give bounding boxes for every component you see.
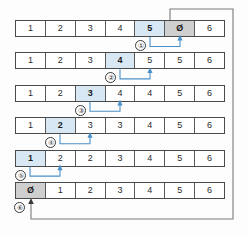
array-cell: 1 <box>16 53 46 68</box>
array-cell: 5 <box>135 21 165 36</box>
shift-arrow-path <box>30 167 60 177</box>
array-cell: 4 <box>135 86 165 101</box>
array-cell: 5 <box>135 53 165 68</box>
array-cell: 2 <box>46 86 76 101</box>
array-cell: 1 <box>46 183 76 198</box>
array-shift-diagram: 12345Ø61234556123445612334561223456Ø1234… <box>0 0 248 238</box>
array-cell: 2 <box>46 53 76 68</box>
array-cell: 6 <box>195 86 224 101</box>
array-cell: 4 <box>135 118 165 133</box>
array-cell: 1 <box>16 118 46 133</box>
shift-arrow-path <box>90 102 120 112</box>
array-cell: 6 <box>195 21 224 36</box>
step-marker: ⑤ <box>15 170 26 181</box>
shift-arrow-path <box>120 69 150 79</box>
array-cell: 4 <box>135 151 165 166</box>
array-cell: 6 <box>195 183 224 198</box>
array-cell: 3 <box>106 151 136 166</box>
array-cell: 3 <box>76 53 106 68</box>
array-cell: 5 <box>165 53 195 68</box>
array-cell: 3 <box>106 183 136 198</box>
array-cell: 5 <box>165 86 195 101</box>
array-cell: 1 <box>16 86 46 101</box>
shift-arrow-path <box>60 134 90 144</box>
array-cell: 1 <box>16 151 46 166</box>
array-cell: 2 <box>46 21 76 36</box>
step-marker: ⑥ <box>14 202 25 213</box>
array-cell: 4 <box>106 53 136 68</box>
array-cell: 3 <box>106 118 136 133</box>
array-cell: 4 <box>106 21 136 36</box>
array-cell: 2 <box>76 183 106 198</box>
array-cell: 6 <box>195 118 224 133</box>
step-marker: ① <box>135 40 146 51</box>
array-cell: 6 <box>195 53 224 68</box>
array-cell: 2 <box>76 151 106 166</box>
array-cell: 5 <box>165 118 195 133</box>
array-cell: 6 <box>195 151 224 166</box>
array-cell: Ø <box>16 183 46 198</box>
array-row: 12345Ø6 <box>15 20 225 37</box>
array-row: 1234556 <box>15 52 225 69</box>
step-marker: ④ <box>45 137 56 148</box>
array-cell: 3 <box>76 86 106 101</box>
array-cell: 5 <box>165 183 195 198</box>
array-cell: Ø <box>165 21 195 36</box>
array-cell: 4 <box>135 183 165 198</box>
array-row: 1223456 <box>15 150 225 167</box>
array-cell: 3 <box>76 118 106 133</box>
array-cell: 5 <box>165 151 195 166</box>
array-row: 1234456 <box>15 85 225 102</box>
array-row: 1233456 <box>15 117 225 134</box>
array-cell: 4 <box>106 86 136 101</box>
step-marker: ② <box>105 72 116 83</box>
array-cell: 2 <box>46 151 76 166</box>
array-cell: 2 <box>46 118 76 133</box>
step-marker: ③ <box>75 105 86 116</box>
array-cell: 3 <box>76 21 106 36</box>
array-row: Ø123456 <box>15 182 225 199</box>
shift-arrow-path <box>150 37 180 47</box>
array-cell: 1 <box>16 21 46 36</box>
